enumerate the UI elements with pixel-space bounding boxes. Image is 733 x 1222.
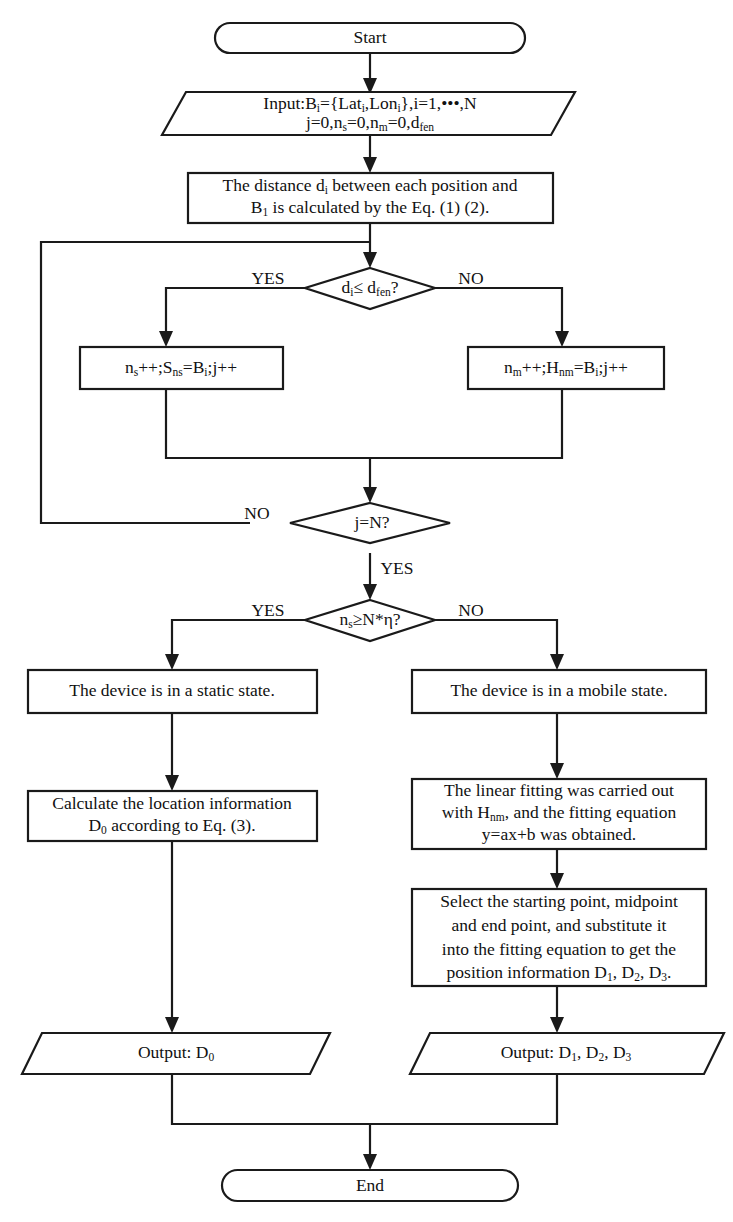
- node-distance-calculation[interactable]: The distance di between each position an…: [188, 173, 553, 223]
- node-static-state[interactable]: The device is in a static state.: [28, 670, 317, 713]
- decision-fence-label: di≤ dfen?: [341, 277, 398, 298]
- arrowhead-calc-to-output-static: [165, 1017, 179, 1033]
- arrowhead-static-to-calc: [165, 775, 179, 791]
- arrowhead-jn-yes: [363, 584, 377, 600]
- distance-line2: B1 is calculated by the Eq. (1) (2).: [251, 197, 490, 218]
- node-end[interactable]: End: [222, 1170, 518, 1201]
- node-mobile-count[interactable]: nm++;Hnm=Bi;j++: [468, 347, 664, 389]
- select-points-line2: and end point, and substitute it: [452, 915, 667, 935]
- decision-jn-label: j=N?: [353, 512, 389, 532]
- arrowhead-merge-to-end: [363, 1154, 377, 1170]
- connector-mobile-count-merge: [370, 389, 562, 458]
- mobile-state-label: The device is in a mobile state.: [450, 680, 667, 700]
- node-start[interactable]: Start: [215, 23, 525, 53]
- arrowhead-eta-yes: [165, 654, 179, 670]
- arrowhead-input-to-distance: [363, 157, 377, 173]
- connector-output-mobile-merge: [370, 1074, 557, 1124]
- edge-label-eta-yes: YES: [251, 600, 284, 620]
- arrowhead-fence-no: [555, 331, 569, 347]
- node-static-count[interactable]: ns++;Sns=Bi;j++: [80, 347, 283, 389]
- output-mobile-label: Output: D1, D2, D3: [501, 1042, 632, 1063]
- edge-label-fence-no: NO: [458, 268, 483, 288]
- arrowhead-mobile-to-fitting: [550, 763, 564, 779]
- calc-location-line1: Calculate the location information: [52, 793, 292, 813]
- node-calc-location[interactable]: Calculate the location information D0 ac…: [28, 791, 317, 841]
- input-line1: Input:Bi={Lati,Loni},i=1,•••,N: [263, 93, 477, 114]
- connector-static-count-merge: [166, 389, 370, 458]
- node-output-static[interactable]: Output: D0: [22, 1033, 330, 1074]
- flowchart-root: YES NO NO YES YES NO Start Input:Bi={Lat…: [0, 0, 733, 1222]
- node-decision-fence[interactable]: di≤ dfen?: [305, 268, 435, 309]
- connector-eta-yes: [172, 620, 305, 660]
- connector-fence-no: [435, 288, 562, 337]
- arrowhead-select-to-output-mobile: [550, 1017, 564, 1033]
- start-label: Start: [353, 27, 386, 47]
- select-points-line3: into the fitting equation to get the: [442, 939, 676, 959]
- node-decision-eta[interactable]: ns≥N*η?: [305, 600, 435, 641]
- node-linear-fitting[interactable]: The linear fitting was carried out with …: [412, 779, 706, 849]
- edge-label-eta-no: NO: [458, 600, 483, 620]
- arrowhead-fitting-to-select: [550, 873, 564, 889]
- connector-eta-no: [435, 620, 557, 660]
- arrowhead-eta-no: [550, 654, 564, 670]
- end-label: End: [356, 1175, 384, 1195]
- edge-label-fence-yes: YES: [251, 268, 284, 288]
- arrowhead-fence-yes: [159, 331, 173, 347]
- arrowhead-distance-to-fence: [363, 252, 377, 268]
- flowchart-canvas: YES NO NO YES YES NO Start Input:Bi={Lat…: [0, 0, 733, 1222]
- static-state-label: The device is in a static state.: [69, 680, 275, 700]
- calc-location-line2: D0 according to Eq. (3).: [88, 815, 255, 836]
- input-line2: j=0,ns=0,nm=0,dfen: [305, 112, 434, 133]
- edge-label-layer: YES NO NO YES YES NO: [244, 268, 483, 620]
- output-static-label: Output: D0: [138, 1042, 215, 1063]
- edge-label-jn-no: NO: [244, 503, 269, 523]
- arrowhead-merge-to-jn: [363, 487, 377, 503]
- distance-line1: The distance di between each position an…: [223, 175, 518, 196]
- node-select-points[interactable]: Select the starting point, midpoint and …: [412, 889, 706, 986]
- connector-fence-yes: [166, 288, 305, 337]
- node-input[interactable]: Input:Bi={Lati,Loni},i=1,•••,N j=0,ns=0,…: [162, 92, 575, 135]
- linear-fitting-line2: with Hnm, and the fitting equation: [442, 802, 677, 823]
- select-points-line1: Select the starting point, midpoint: [440, 891, 678, 911]
- linear-fitting-line1: The linear fitting was carried out: [444, 780, 674, 800]
- node-mobile-state[interactable]: The device is in a mobile state.: [412, 670, 706, 713]
- node-decision-jn[interactable]: j=N?: [290, 503, 450, 543]
- linear-fitting-line3: y=ax+b was obtained.: [482, 824, 636, 844]
- node-output-mobile[interactable]: Output: D1, D2, D3: [410, 1033, 724, 1074]
- edge-label-jn-yes: YES: [380, 558, 413, 578]
- connector-output-static-merge: [172, 1074, 370, 1124]
